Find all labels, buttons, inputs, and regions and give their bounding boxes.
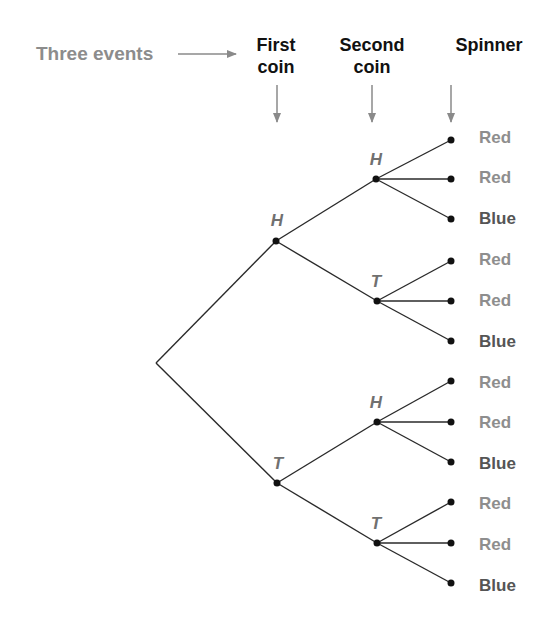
- outcome-label: Blue: [479, 210, 516, 227]
- outcome-label: Red: [479, 414, 511, 431]
- tree-lines: [0, 0, 557, 625]
- header-line2: coin: [339, 58, 404, 76]
- leaf-node: [448, 580, 455, 587]
- leaf-node: [448, 338, 455, 345]
- node-second-ht: [374, 298, 381, 305]
- outcome-label: Red: [479, 292, 511, 309]
- outcome-label: Red: [479, 536, 511, 553]
- outcome-label: Blue: [479, 455, 516, 472]
- outcome-label: Red: [479, 251, 511, 268]
- first-coin-h-label: H: [271, 212, 283, 229]
- node-second-hh: [373, 176, 380, 183]
- header-line2: coin: [256, 58, 295, 76]
- outcome-label: Blue: [479, 333, 516, 350]
- header-line1: Spinner: [455, 36, 522, 54]
- header-spinner: Spinner: [455, 36, 522, 54]
- outcome-label: Blue: [479, 577, 516, 594]
- header-line1: First: [256, 36, 295, 54]
- leaf-node: [448, 176, 455, 183]
- outcome-label: Red: [479, 129, 511, 146]
- leaf-node: [448, 499, 455, 506]
- header-line1: Second: [339, 36, 404, 54]
- header-first-coin: First coin: [256, 36, 295, 76]
- leaf-node: [448, 459, 455, 466]
- node-first-h: [273, 238, 280, 245]
- second-coin-hh-label: H: [370, 151, 382, 168]
- outcome-label: Red: [479, 495, 511, 512]
- leaf-node: [448, 216, 455, 223]
- second-coin-ht-label: T: [371, 273, 381, 290]
- tree-diagram: Three events First coin Second coin Spin…: [0, 0, 557, 625]
- node-second-th: [374, 419, 381, 426]
- first-coin-t-label: T: [273, 455, 283, 472]
- three-events-label: Three events: [36, 44, 153, 63]
- outcome-label: Red: [479, 374, 511, 391]
- node-second-tt: [374, 540, 381, 547]
- leaf-node: [448, 137, 455, 144]
- second-coin-tt-label: T: [371, 515, 381, 532]
- header-second-coin: Second coin: [339, 36, 404, 76]
- leaf-node: [448, 419, 455, 426]
- node-first-t: [274, 480, 281, 487]
- outcome-label: Red: [479, 169, 511, 186]
- leaf-node: [448, 298, 455, 305]
- leaf-node: [448, 540, 455, 547]
- leaf-node: [448, 258, 455, 265]
- leaf-node: [448, 378, 455, 385]
- second-coin-th-label: H: [370, 394, 382, 411]
